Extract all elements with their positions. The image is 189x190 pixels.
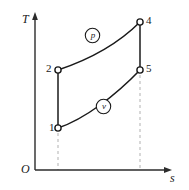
process-label-v: v [97,102,111,111]
state-point-marker-2 [55,67,61,73]
process-label-p: p [86,31,100,40]
state-point-marker-5 [137,67,143,73]
state-point-marker-4 [137,19,143,25]
y-axis-label: T [22,13,29,25]
y-axis-arrowhead [32,12,38,20]
ts-diagram-figure: T s O 1 2 4 5 p v [0,0,189,190]
process-curve-2-4 [58,22,140,70]
state-point-label-2: 2 [46,63,52,74]
state-point-label-5: 5 [146,63,152,74]
state-point-label-1: 1 [49,122,55,133]
state-point-label-4: 4 [146,15,152,26]
x-axis-label: s [170,172,175,184]
origin-label: O [21,163,30,175]
state-point-marker-1 [55,125,61,131]
process-curve-1-5 [58,70,140,128]
